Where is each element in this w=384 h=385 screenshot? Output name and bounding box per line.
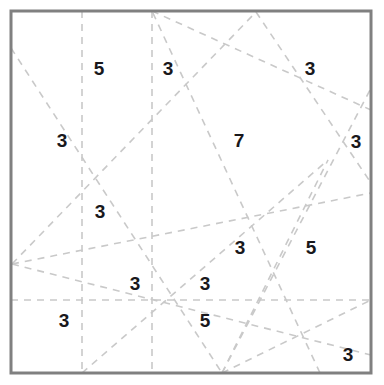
region-count-label: 5 [306, 238, 317, 257]
region-count-label: 7 [234, 131, 245, 150]
region-label-layer: 53337333533353 [0, 0, 384, 385]
region-count-label: 3 [95, 202, 106, 221]
region-count-label: 3 [163, 59, 174, 78]
region-count-label: 3 [351, 132, 362, 151]
region-count-label: 3 [57, 131, 68, 150]
region-count-label: 5 [200, 311, 211, 330]
region-count-label: 3 [200, 274, 211, 293]
region-count-label: 3 [59, 311, 70, 330]
figure-canvas: 53337333533353 [0, 0, 384, 385]
region-count-label: 3 [343, 345, 354, 364]
region-count-label: 3 [305, 59, 316, 78]
region-count-label: 5 [94, 59, 105, 78]
region-count-label: 3 [130, 274, 141, 293]
region-count-label: 3 [235, 238, 246, 257]
